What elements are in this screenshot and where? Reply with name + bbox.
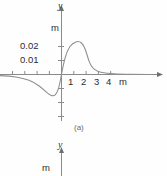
figure-b-partial: y m bbox=[0, 0, 167, 176]
plot-canvas-b bbox=[0, 0, 167, 176]
figure-page: y m 0.02 0.01 1 2 3 4 m (a) y m bbox=[0, 0, 167, 176]
y-axis-name-label-b: y bbox=[58, 140, 62, 150]
y-axis-unit-label-b: m bbox=[42, 163, 50, 173]
